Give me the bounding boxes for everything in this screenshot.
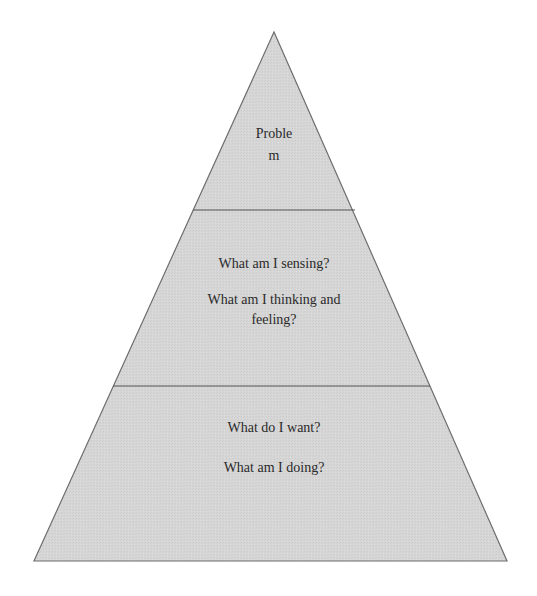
tier-top-line-2: m (256, 146, 293, 166)
want-question: What do I want? (228, 418, 321, 438)
tier-middle-item-1: What am I sensing? (219, 254, 330, 274)
doing-question: What am I doing? (224, 458, 325, 478)
tier-bottom-item-2: What am I doing? (224, 458, 325, 478)
tier-top-line-1: Proble (256, 124, 293, 144)
tier-bottom-item-1: What do I want? (228, 418, 321, 438)
sensing-question: What am I sensing? (219, 254, 330, 274)
tier-top-label: Proble m (256, 124, 293, 166)
thinking-question-line-2: feeling? (208, 310, 341, 330)
tier-middle-item-2: What am I thinking and feeling? (208, 290, 341, 330)
thinking-question-line-1: What am I thinking and (208, 290, 341, 310)
